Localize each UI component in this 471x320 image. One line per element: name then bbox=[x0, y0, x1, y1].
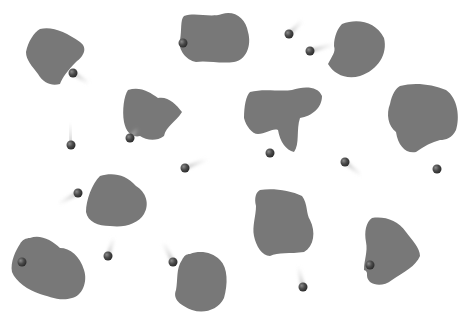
blob-obstacle bbox=[328, 21, 385, 77]
blob-obstacle bbox=[175, 252, 227, 312]
blob-obstacle bbox=[388, 84, 458, 152]
game-canvas bbox=[0, 0, 471, 320]
ball-sprite bbox=[266, 149, 275, 158]
ball-sprite bbox=[179, 39, 188, 48]
blob-obstacle bbox=[253, 189, 313, 256]
blob-obstacle bbox=[244, 88, 322, 152]
ball-sprite bbox=[299, 283, 308, 292]
blob-obstacle bbox=[180, 13, 250, 63]
ball-sprite bbox=[306, 47, 315, 56]
ball-sprite bbox=[18, 258, 27, 267]
ball-sprite bbox=[67, 141, 76, 150]
ball-sprite bbox=[181, 164, 190, 173]
ball-sprite bbox=[285, 30, 294, 39]
ball-sprite bbox=[433, 165, 442, 174]
ball-sprite bbox=[104, 252, 113, 261]
blob-obstacle bbox=[12, 237, 86, 300]
blob-obstacle bbox=[364, 218, 420, 285]
game-scene bbox=[0, 0, 471, 320]
blob-obstacle bbox=[123, 89, 182, 140]
blob-layer bbox=[12, 13, 458, 312]
ball-sprite bbox=[74, 189, 83, 198]
ball-sprite bbox=[126, 134, 135, 143]
ball-sprite bbox=[169, 258, 178, 267]
blob-obstacle bbox=[86, 174, 147, 226]
ball-sprite bbox=[69, 69, 78, 78]
ball-sprite bbox=[366, 261, 375, 270]
ball-sprite bbox=[341, 158, 350, 167]
